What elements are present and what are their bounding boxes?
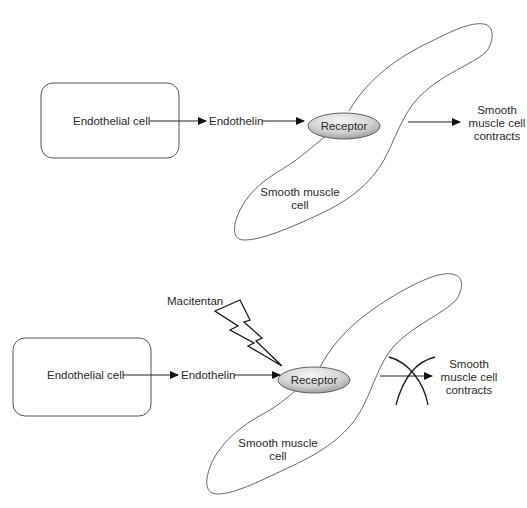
receptor-label: Receptor	[278, 374, 350, 387]
outcome-label-line-1: Smooth	[466, 104, 527, 117]
outcome-label: Smooth muscle cell contracts	[466, 104, 527, 143]
cross-out-icon	[389, 357, 435, 405]
smooth-muscle-cell-label: Smooth muscle cell	[236, 437, 320, 463]
outcome-label-line-3: contracts	[438, 384, 500, 397]
receptor-label: Receptor	[308, 120, 380, 133]
outcome-label-line-2: muscle cell	[466, 117, 527, 130]
diagram-canvas	[0, 0, 527, 508]
endothelin-label: Endothelin	[181, 369, 235, 382]
endothelial-cell-label: Endothelial cell	[73, 115, 150, 128]
smooth-muscle-cell-label-line-2: cell	[236, 450, 320, 463]
endothelial-cell-label: Endothelial cell	[47, 369, 124, 382]
outcome-label-line-2: muscle cell	[438, 371, 500, 384]
endothelin-label: Endothelin	[209, 115, 263, 128]
smooth-muscle-cell-label-line-1: Smooth muscle	[236, 437, 320, 450]
smooth-muscle-cell-label: Smooth muscle cell	[258, 186, 342, 212]
macitentan-label: Macitentan	[167, 295, 223, 308]
outcome-label-line-1: Smooth	[438, 358, 500, 371]
lightning-bolt-icon	[215, 300, 282, 366]
smooth-muscle-cell-label-line-2: cell	[258, 199, 342, 212]
outcome-label: Smooth muscle cell contracts	[438, 358, 500, 397]
smooth-muscle-cell-label-line-1: Smooth muscle	[258, 186, 342, 199]
outcome-label-line-3: contracts	[466, 130, 527, 143]
